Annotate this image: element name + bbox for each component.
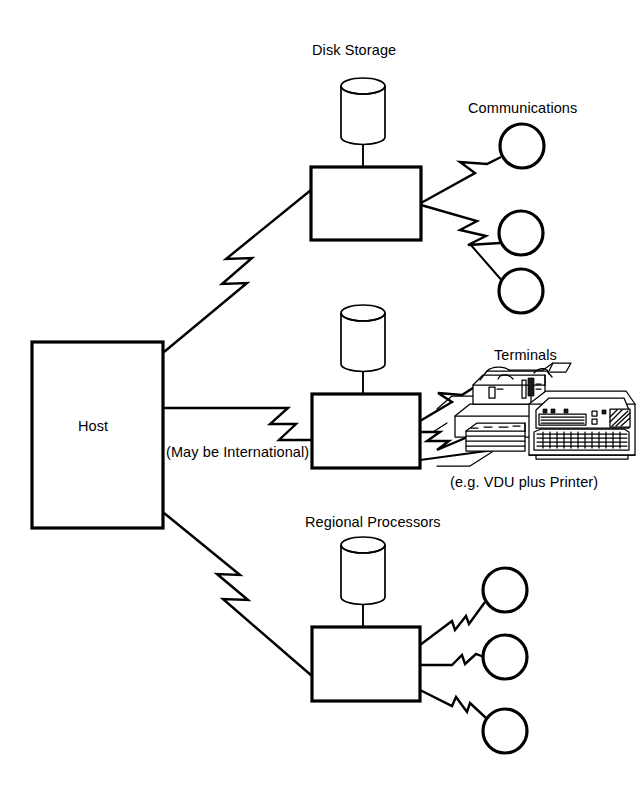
label-communications: Communications: [468, 100, 577, 116]
label-terminals: Terminals: [494, 347, 557, 363]
zigzag-link-host-to-terminals: [164, 408, 312, 440]
terminal-processor-box: [312, 394, 420, 468]
regional-node-1: [483, 568, 527, 612]
label-regional-processors: Regional Processors: [305, 514, 441, 530]
disk-cylinder-bottom: [341, 537, 385, 627]
network-architecture-diagram: Disk Storage Communications Host (May be…: [0, 0, 643, 794]
host-box: [32, 342, 163, 528]
comms-node-3: [499, 269, 543, 313]
zigzag-link-host-to-comms: [164, 190, 311, 352]
terminal-illustration-icon: [433, 363, 635, 466]
label-vdu-plus-printer: (e.g. VDU plus Printer): [450, 474, 598, 490]
disk-cylinder-top: [341, 78, 385, 167]
link-comms-box-to-node-1: [421, 157, 501, 203]
zigzag-link-host-to-regional: [164, 513, 312, 676]
diagram-canvas: [0, 0, 643, 794]
label-may-be-international: (May be International): [166, 444, 309, 460]
label-host: Host: [78, 418, 108, 434]
regional-processor-box: [312, 627, 420, 701]
link-regional-box-to-node-3: [420, 690, 486, 718]
label-disk-storage: Disk Storage: [312, 42, 396, 58]
regional-node-3: [483, 709, 527, 753]
link-comms-box-to-node-2: [421, 205, 500, 245]
link-regional-box-to-node-1: [420, 602, 485, 645]
disk-cylinder-middle: [341, 305, 385, 394]
link-comms-node-2-to-node-3: [470, 244, 504, 283]
comms-node-1: [500, 124, 544, 168]
regional-node-2: [483, 635, 527, 679]
link-regional-box-to-node-2: [420, 654, 484, 665]
comms-processor-box: [311, 167, 421, 240]
comms-node-2: [499, 211, 543, 255]
